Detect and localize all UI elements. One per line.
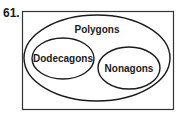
dodecagons-label: Dodecagons (33, 53, 93, 64)
nonagons-label: Nonagons (105, 63, 154, 74)
polygons-label: Polygons (74, 24, 119, 35)
venn-diagram: Polygons Dodecagons Nonagons (0, 0, 180, 113)
